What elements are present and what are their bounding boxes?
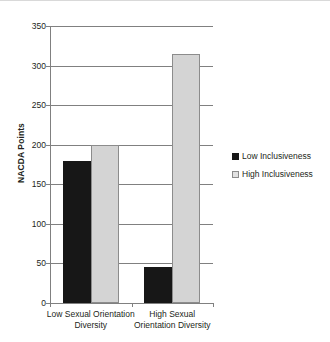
x-axis-category-line: Orientation Diversity [112, 320, 232, 331]
y-axis-tick-labels: 050100150200250300350 [0, 0, 46, 342]
x-axis-category-high-diversity: High SexualOrientation Diversity [112, 309, 232, 331]
y-axis-tick-label: 200 [2, 141, 46, 149]
plot-area [50, 26, 213, 303]
y-axis-tick-mark [46, 26, 50, 27]
high-inclusiveness-swatch [232, 171, 239, 178]
y-axis-tick-label: 150 [2, 180, 46, 188]
y-axis-tick-mark [46, 145, 50, 146]
legend-label: Low Inclusiveness [242, 152, 311, 161]
y-axis-tick-label: 50 [2, 259, 46, 267]
bar-low-inclusiveness [63, 161, 91, 303]
legend-label: High Inclusiveness [242, 170, 313, 179]
y-axis-tick-mark [46, 105, 50, 106]
legend-item: Low Inclusiveness [232, 152, 328, 161]
y-axis-tick-label: 300 [2, 62, 46, 70]
y-axis-tick-mark [46, 263, 50, 264]
bar-high-inclusiveness [172, 54, 200, 303]
x-axis-tick-mark [132, 303, 133, 307]
x-axis-category-line: High Sexual [112, 309, 232, 320]
low-inclusiveness-swatch [232, 153, 239, 160]
chart-legend: Low InclusivenessHigh Inclusiveness [232, 152, 328, 188]
legend-item: High Inclusiveness [232, 170, 328, 179]
y-axis-tick-mark [46, 224, 50, 225]
y-axis-tick-label: 350 [2, 22, 46, 30]
gridline [50, 26, 213, 27]
x-axis-tick-mark [50, 303, 51, 307]
bar-low-inclusiveness [144, 267, 172, 303]
bar-high-inclusiveness [91, 145, 119, 303]
y-axis-tick-mark [46, 66, 50, 67]
x-axis-tick-mark [213, 303, 214, 307]
y-axis-tick-label: 100 [2, 220, 46, 228]
y-axis-tick-label: 250 [2, 101, 46, 109]
bar-chart: NACDA Points 050100150200250300350 Low S… [0, 0, 330, 342]
y-axis-tick-mark [46, 184, 50, 185]
y-axis-tick-label: 0 [2, 299, 46, 307]
